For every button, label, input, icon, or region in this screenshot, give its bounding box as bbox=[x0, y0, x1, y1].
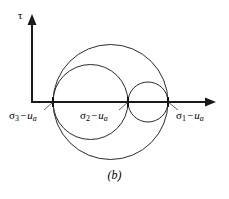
sigma3-minus-sign: − bbox=[19, 109, 27, 121]
leader-lines-group bbox=[44, 102, 178, 110]
shear-stress-axis bbox=[28, 14, 37, 102]
horizontal-axis-arrow-icon bbox=[205, 98, 216, 107]
axis-label-sigma1: σ1−ua bbox=[176, 110, 204, 121]
mohr-circle-figure: τ σ3−ua σ2−ua σ1−ua (b) bbox=[0, 0, 229, 199]
sigma1-u-symbol: u bbox=[194, 109, 200, 121]
sigma2-u-symbol: u bbox=[98, 109, 104, 121]
sigma1-subscript: 1 bbox=[182, 114, 186, 123]
sigma1-u-subscript: a bbox=[200, 114, 204, 123]
vertical-axis-arrow-icon bbox=[28, 14, 37, 25]
leader-line-sigma2 bbox=[119, 102, 128, 110]
sigma1-minus-sign: − bbox=[186, 109, 194, 121]
sigma2-subscript: 2 bbox=[86, 114, 90, 123]
sigma3-u-symbol: u bbox=[27, 109, 33, 121]
leader-line-sigma3 bbox=[44, 102, 53, 110]
sigma2-u-subscript: a bbox=[104, 114, 108, 123]
sigma3-subscript: 3 bbox=[15, 114, 19, 123]
sigma3-u-subscript: a bbox=[33, 114, 37, 123]
shear-stress-axis-label: τ bbox=[18, 10, 22, 21]
axis-label-sigma2: σ2−ua bbox=[80, 110, 108, 121]
sigma2-minus-sign: − bbox=[90, 109, 98, 121]
axis-label-sigma3: σ3−ua bbox=[9, 110, 37, 121]
figure-caption: (b) bbox=[0, 168, 229, 183]
